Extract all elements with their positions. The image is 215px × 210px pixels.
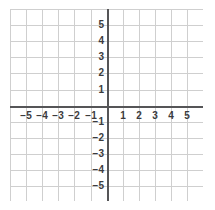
cartesian-coordinate-plane: −5−4−3−2−11234554321−1−2−3−4−5 xyxy=(0,0,215,210)
y-axis-tick-label: 4 xyxy=(86,35,104,46)
gridline-vertical xyxy=(10,9,11,201)
y-axis-tick-label: 1 xyxy=(86,84,104,95)
x-axis-tick-label: 5 xyxy=(178,110,196,121)
y-axis-tick-label: −5 xyxy=(86,180,104,191)
y-axis-tick-label: 5 xyxy=(86,19,104,30)
gridline-vertical xyxy=(171,9,172,201)
gridline-vertical xyxy=(74,9,75,201)
y-axis-tick-label: −1 xyxy=(86,116,104,127)
x-axis-tick-label: −2 xyxy=(65,110,83,121)
y-axis-tick-label: −3 xyxy=(86,148,104,159)
gridline-vertical xyxy=(26,9,27,201)
y-axis-line xyxy=(107,9,109,201)
gridline-vertical xyxy=(58,9,59,201)
gridline-vertical xyxy=(139,9,140,201)
gridline-vertical xyxy=(42,9,43,201)
gridline-vertical xyxy=(187,9,188,201)
y-axis-tick-label: −4 xyxy=(86,164,104,175)
y-axis-tick-label: 3 xyxy=(86,51,104,62)
gridline-vertical xyxy=(123,9,124,201)
y-axis-tick-label: −2 xyxy=(86,132,104,143)
gridline-vertical xyxy=(155,9,156,201)
y-axis-tick-label: 2 xyxy=(86,67,104,78)
